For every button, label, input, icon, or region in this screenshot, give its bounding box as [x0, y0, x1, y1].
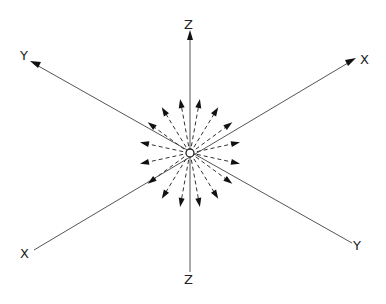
ray-arrowhead — [211, 190, 218, 199]
z-bottom-label: Z — [184, 272, 193, 287]
ray-arrowhead — [231, 159, 240, 165]
ray-arrowhead — [179, 198, 185, 207]
z-top-label: Z — [184, 17, 193, 32]
ray-arrowhead — [162, 190, 169, 199]
ray-arrowhead — [162, 107, 169, 116]
ray-arrowhead — [211, 107, 218, 116]
ray-arrowhead — [195, 198, 201, 207]
ray-arrowhead — [148, 176, 157, 184]
ray-arrowhead — [223, 122, 232, 130]
x-end-label: X — [360, 52, 369, 67]
ray-arrowhead — [179, 99, 185, 108]
ray-arrowhead — [223, 176, 232, 184]
ray-arrowhead — [231, 141, 240, 147]
x-start-label: X — [20, 246, 29, 261]
y-start-label: Y — [352, 238, 361, 253]
ray-arrowhead — [195, 99, 201, 108]
ray-arrowhead — [140, 159, 149, 165]
ray-arrowhead — [140, 141, 149, 147]
y-end-label: Y — [19, 48, 28, 63]
x-axis-arrowhead — [345, 58, 356, 66]
point-source — [186, 149, 194, 157]
diagram-canvas: Z Z X X Y Y — [0, 0, 386, 304]
